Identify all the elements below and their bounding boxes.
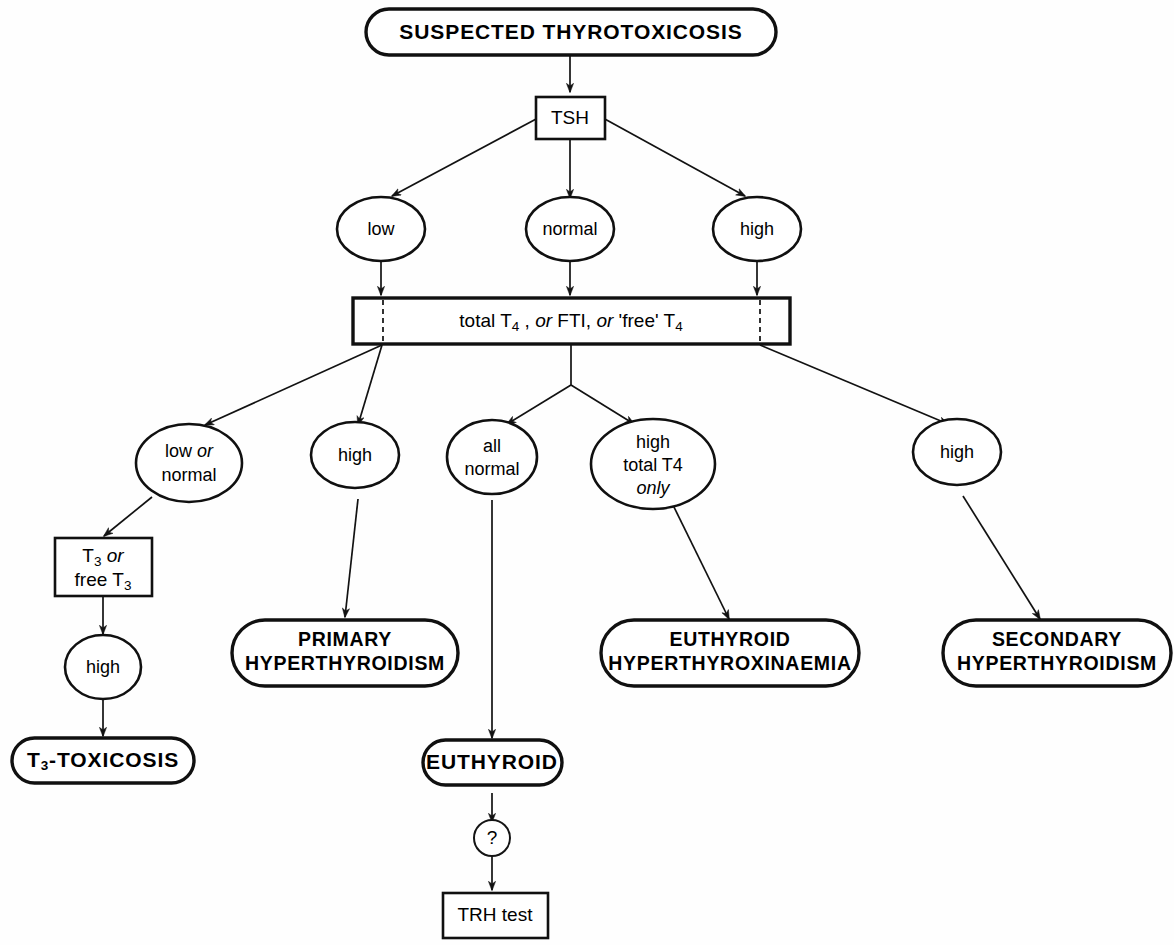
node-label-high-t3: high [86,657,120,677]
node-label-euthyroid-hyperthyroxinaemia-line1: EUTHYROID [669,628,790,650]
node-label-trh-test: TRH test [458,904,534,925]
t4-part2: , [519,310,535,331]
t3-tox-sub: 3 [41,758,49,773]
t3-tox-b: -TOXICOSIS [49,748,179,771]
node-high-right[interactable]: high [913,419,1001,485]
edge-center-to-all-normal [507,385,571,424]
node-label-low-or-normal-line1: low or [165,441,214,461]
node-label-euthyroid-hyperthyroxinaemia-line2: HYPERTHYROXINAEMIA [608,652,851,674]
node-label-high-total-t4-line2: total T4 [623,455,683,475]
edge-low-or-normal-to-t3box [104,497,152,536]
node-t3-box[interactable]: T3 or free T3 [55,538,152,596]
t4-italic1: or [535,310,553,331]
node-all-normal[interactable]: all normal [447,420,537,494]
node-label-tsh-high: high [740,219,774,239]
node-low-or-normal[interactable]: low or normal [136,424,242,502]
edge-t4bar-to-low-or-normal [205,345,382,425]
node-primary-hyperthyroidism[interactable]: PRIMARY HYPERTHYROIDISM [232,620,458,686]
t4-italic2: or [596,310,614,331]
node-label-tsh-low: low [367,219,395,239]
edge-tsh-to-high [603,118,745,196]
edge-t4bar-to-high-right [760,345,948,424]
node-label-tsh: TSH [551,107,589,128]
node-label-primary-line2: HYPERTHYROIDISM [245,652,445,674]
node-label-euthyroid: EUTHYROID [426,750,558,773]
node-label-tsh-normal: normal [542,219,597,239]
t3-line1-sub: 3 [94,554,102,569]
node-label-low-or-normal-line2: normal [161,465,216,485]
edges-layer [103,55,1040,890]
t4-sub2: 4 [675,319,683,334]
node-label-high-left: high [338,445,372,465]
low-or-normal-part1: low [165,441,197,461]
t3-line2-a: free T [75,569,125,590]
node-label-high-total-t4-line1: high [636,432,670,452]
t3-line1-italic: or [107,545,125,566]
node-label-t4-panel: total T4 , or FTI, or 'free' T4 [459,310,683,334]
node-t3-toxicosis[interactable]: T3-TOXICOSIS [12,738,194,783]
node-high-t3[interactable]: high [65,635,141,699]
node-label-t3-toxicosis: T3-TOXICOSIS [27,748,179,773]
edge-t4bar-to-high-left [358,345,382,425]
node-label-t3-box-line1: T3 or [82,545,124,569]
node-secondary-hyperthyroidism[interactable]: SECONDARY HYPERTHYROIDISM [943,620,1171,686]
t3-tox-a: T [27,748,41,771]
t4-part4: 'free' T [613,310,675,331]
edge-high-left-to-primary [345,499,358,617]
node-label-secondary-line1: SECONDARY [992,628,1122,650]
low-or-normal-italic: or [197,441,214,461]
flowchart-svg: SUSPECTED THYROTOXICOSIS TSH low normal … [0,0,1174,945]
t3-line1-a: T [82,545,94,566]
node-label-question: ? [487,827,498,848]
node-question[interactable]: ? [474,820,510,856]
node-label-t3-box-line2: free T3 [75,569,132,593]
node-label-all-normal-line2: normal [464,459,519,479]
node-label-primary-line1: PRIMARY [298,628,392,650]
node-label-root: SUSPECTED THYROTOXICOSIS [399,20,742,43]
node-label-all-normal-line1: all [483,436,501,456]
node-suspected-thyrotoxicosis[interactable]: SUSPECTED THYROTOXICOSIS [366,9,776,55]
flowchart-canvas: SUSPECTED THYROTOXICOSIS TSH low normal … [0,0,1174,945]
t4-part3: FTI, [552,310,596,331]
node-high-left[interactable]: high [311,422,399,488]
node-label-high-total-t4-line3: only [636,478,670,498]
node-tsh[interactable]: TSH [536,97,605,139]
node-euthyroid[interactable]: EUTHYROID [423,740,562,785]
node-tsh-low[interactable]: low [337,197,425,261]
node-t4-panel[interactable]: total T4 , or FTI, or 'free' T4 [353,298,790,344]
node-label-secondary-line2: HYPERTHYROIDISM [957,652,1157,674]
node-trh-test[interactable]: TRH test [443,893,548,938]
t4-part1: total T [459,310,512,331]
t3-line2-sub: 3 [124,578,132,593]
node-tsh-normal[interactable]: normal [526,197,614,261]
edge-tsh-to-low [392,118,538,196]
node-tsh-high[interactable]: high [713,197,801,261]
edge-high-right-to-secondary [963,496,1040,619]
node-label-high-right: high [940,442,974,462]
node-euthyroid-hyperthyroxinaemia[interactable]: EUTHYROID HYPERTHYROXINAEMIA [601,620,859,686]
edge-high-total-t4-to-euthyroid-hyperthyroxinaemia [672,503,729,619]
edge-center-to-high-total-t4 [571,385,634,424]
node-high-total-t4-only[interactable]: high total T4 only [591,419,715,509]
